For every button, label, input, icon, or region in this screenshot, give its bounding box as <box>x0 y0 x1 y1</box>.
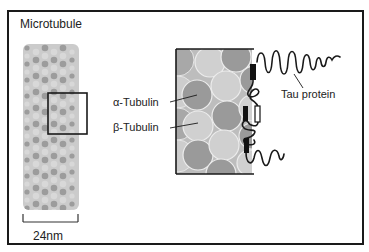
diagram-canvas <box>0 0 369 252</box>
beta-tubulin-label: β-Tubulin <box>113 121 159 133</box>
scale-bar-label: 24nm <box>33 229 63 243</box>
scale-bar <box>23 214 78 222</box>
microtubule-title: Microtubule <box>20 17 82 31</box>
microtubule-cylinder <box>23 44 79 215</box>
alpha-tubulin-label: α-Tubulin <box>113 96 159 108</box>
tau-protein-label: Tau protein <box>281 88 335 100</box>
tau-leader-line <box>294 74 303 88</box>
